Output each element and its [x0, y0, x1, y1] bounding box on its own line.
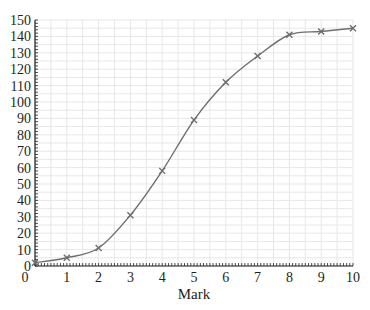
y-tick-label: 50 — [17, 177, 31, 192]
y-tick-label: 70 — [17, 144, 31, 159]
y-tick-label: 150 — [10, 13, 31, 28]
x-tick-label: 6 — [222, 270, 229, 285]
x-tick-label: 10 — [346, 270, 360, 285]
x-tick-label: 2 — [95, 270, 102, 285]
x-tick-label: 1 — [63, 270, 70, 285]
cumulative-frequency-chart: 0102030405060708090100110120130140150 01… — [0, 0, 370, 310]
y-tick-label: 80 — [17, 128, 31, 143]
x-tick-label: 4 — [159, 270, 166, 285]
y-tick-label: 60 — [17, 161, 31, 176]
x-tick-label: 8 — [286, 270, 293, 285]
y-tick-label: 130 — [10, 46, 31, 61]
y-tick-label: 90 — [17, 111, 31, 126]
x-tick-label: 3 — [127, 270, 134, 285]
y-tick-label: 10 — [17, 243, 31, 258]
y-tick-label: 110 — [11, 79, 31, 94]
x-tick-label: 7 — [254, 270, 261, 285]
x-axis-label: Mark — [178, 286, 211, 302]
y-axis-tick-labels: 0102030405060708090100110120130140150 — [10, 13, 31, 274]
x-tick-label: 5 — [191, 270, 198, 285]
y-tick-label: 20 — [17, 226, 31, 241]
y-tick-label: 140 — [10, 29, 31, 44]
y-tick-label: 30 — [17, 210, 31, 225]
y-tick-label: 100 — [10, 95, 31, 110]
x-tick-label: 9 — [318, 270, 325, 285]
y-tick-label: 120 — [10, 62, 31, 77]
y-tick-label: 40 — [17, 193, 31, 208]
grid-lines — [35, 20, 353, 266]
x-axis-tick-labels: 012345678910 — [22, 270, 361, 285]
x-tick-label: 0 — [22, 270, 29, 285]
